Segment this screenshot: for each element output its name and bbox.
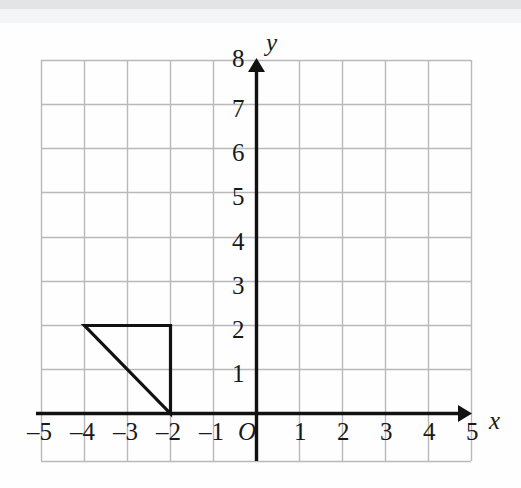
y-tick-label-3: 3 — [232, 273, 245, 298]
coordinate-plane-svg — [0, 0, 521, 488]
x-tick-label-3: 3 — [380, 419, 393, 444]
x-tick-label--3: –3 — [113, 419, 138, 444]
x-tick-label-4: 4 — [423, 419, 436, 444]
x-tick-label-2: 2 — [337, 419, 350, 444]
y-tick-label-8: 8 — [232, 46, 245, 71]
y-tick-label-7: 7 — [232, 96, 245, 121]
y-axis-label: y — [266, 30, 277, 55]
y-axis — [248, 58, 265, 461]
x-tick-label--4: –4 — [70, 419, 95, 444]
figure-canvas: –5 –4 –3 –2 –1 O 1 2 3 4 5 x 1 2 3 4 5 6… — [0, 0, 521, 488]
x-tick-label--1: –1 — [199, 419, 224, 444]
origin-label: O — [238, 419, 256, 444]
y-tick-label-4: 4 — [232, 229, 245, 254]
x-axis-label: x — [489, 408, 500, 433]
x-tick-label--2: –2 — [156, 419, 181, 444]
y-tick-label-2: 2 — [232, 317, 245, 342]
x-tick-label-1: 1 — [294, 419, 307, 444]
x-tick-label-5: 5 — [466, 419, 479, 444]
y-tick-label-1: 1 — [232, 361, 245, 386]
x-tick-label--5: –5 — [27, 419, 52, 444]
y-tick-label-6: 6 — [232, 140, 245, 165]
y-tick-label-5: 5 — [232, 184, 245, 209]
